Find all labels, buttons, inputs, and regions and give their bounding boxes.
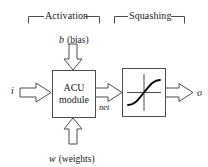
net-arrow <box>95 84 122 102</box>
weights-label-group: w(weights) <box>49 149 95 165</box>
weights-symbol: w <box>49 153 56 164</box>
net-label: net <box>99 103 109 112</box>
diagram-canvas <box>0 0 208 167</box>
bias-symbol: b <box>59 34 64 45</box>
output-label: o <box>197 88 202 98</box>
input-arrow <box>20 83 51 102</box>
input-label: i <box>11 86 14 96</box>
bias-paren: (bias) <box>67 35 89 45</box>
bias-arrow <box>64 44 82 70</box>
activation-bracket-label: Activation <box>45 11 88 21</box>
acu-module-label-line1: ACU <box>53 82 95 93</box>
acu-module-label-line2: module <box>53 94 95 105</box>
weights-paren: (weights) <box>59 154 95 164</box>
weights-arrow <box>64 118 82 144</box>
output-arrow <box>165 84 193 102</box>
acu-block-diagram: Activation Squashing b(bias) w(weights) … <box>0 0 208 167</box>
squashing-bracket-label: Squashing <box>129 11 172 21</box>
bias-label-group: b(bias) <box>59 30 89 46</box>
